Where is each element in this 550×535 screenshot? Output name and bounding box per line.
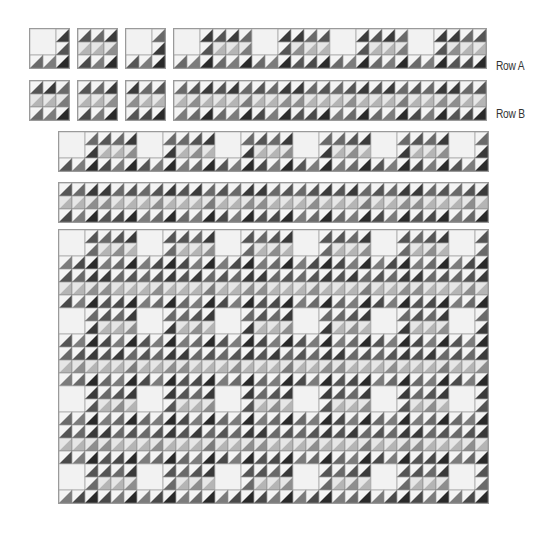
half-square-triangle	[371, 269, 384, 282]
half-square-triangle	[358, 196, 371, 209]
half-square-triangle	[473, 55, 486, 68]
white-square	[293, 386, 319, 412]
half-square-triangle	[345, 438, 358, 451]
half-square-triangle	[189, 425, 202, 438]
half-square-triangle	[436, 399, 449, 412]
half-square-triangle	[241, 464, 254, 477]
half-square-triangle	[410, 451, 423, 464]
half-square-triangle	[228, 490, 241, 503]
half-square-triangle	[187, 107, 200, 120]
half-square-triangle	[449, 334, 462, 347]
half-square-triangle	[449, 347, 462, 360]
half-square-triangle	[189, 243, 202, 256]
half-square-triangle	[98, 386, 111, 399]
half-square-triangle	[176, 412, 189, 425]
half-square-triangle	[410, 269, 423, 282]
half-square-triangle	[215, 196, 228, 209]
half-square-triangle	[78, 42, 91, 55]
half-square-triangle	[475, 334, 488, 347]
half-square-triangle	[59, 256, 72, 269]
half-square-triangle	[202, 295, 215, 308]
half-square-triangle	[345, 269, 358, 282]
half-square-triangle	[397, 399, 410, 412]
half-square-triangle	[447, 42, 460, 55]
half-square-triangle	[137, 183, 150, 196]
patchwork-grid	[30, 29, 69, 68]
half-square-triangle	[254, 347, 267, 360]
half-square-triangle	[176, 132, 189, 145]
half-square-triangle	[384, 196, 397, 209]
half-square-triangle	[163, 477, 176, 490]
half-square-triangle	[85, 158, 98, 171]
white-square	[293, 464, 319, 490]
half-square-triangle	[59, 412, 72, 425]
half-square-triangle	[449, 295, 462, 308]
half-square-triangle	[174, 107, 187, 120]
half-square-triangle	[104, 94, 117, 107]
half-square-triangle	[85, 477, 98, 490]
half-square-triangle	[59, 451, 72, 464]
half-square-triangle	[59, 360, 72, 373]
half-square-triangle	[395, 55, 408, 68]
half-square-triangle	[371, 183, 384, 196]
half-square-triangle	[447, 81, 460, 94]
half-square-triangle	[369, 55, 382, 68]
half-square-triangle	[111, 347, 124, 360]
half-square-triangle	[371, 295, 384, 308]
half-square-triangle	[423, 196, 436, 209]
half-square-triangle	[306, 183, 319, 196]
half-square-triangle	[85, 145, 98, 158]
half-square-triangle	[447, 107, 460, 120]
half-square-triangle	[124, 490, 137, 503]
half-square-triangle	[423, 145, 436, 158]
half-square-triangle	[126, 94, 139, 107]
half-square-triangle	[343, 94, 356, 107]
half-square-triangle	[215, 269, 228, 282]
half-square-triangle	[124, 464, 137, 477]
half-square-triangle	[462, 269, 475, 282]
half-square-triangle	[358, 412, 371, 425]
half-square-triangle	[410, 334, 423, 347]
half-square-triangle	[345, 158, 358, 171]
half-square-triangle	[228, 209, 241, 222]
half-square-triangle	[85, 438, 98, 451]
half-square-triangle	[371, 425, 384, 438]
half-square-triangle	[319, 451, 332, 464]
half-square-triangle	[306, 295, 319, 308]
half-square-triangle	[85, 321, 98, 334]
half-square-triangle	[384, 438, 397, 451]
half-square-triangle	[85, 451, 98, 464]
half-square-triangle	[124, 282, 137, 295]
half-square-triangle	[449, 256, 462, 269]
half-square-triangle	[319, 425, 332, 438]
half-square-triangle	[124, 158, 137, 171]
half-square-triangle	[98, 334, 111, 347]
half-square-triangle	[91, 29, 104, 42]
white-square	[252, 29, 278, 55]
half-square-triangle	[72, 295, 85, 308]
half-square-triangle	[72, 360, 85, 373]
half-square-triangle	[98, 209, 111, 222]
half-square-triangle	[215, 490, 228, 503]
half-square-triangle	[215, 412, 228, 425]
white-square	[293, 132, 319, 158]
half-square-triangle	[241, 308, 254, 321]
half-square-triangle	[332, 196, 345, 209]
white-square	[293, 308, 319, 334]
half-square-triangle	[358, 158, 371, 171]
half-square-triangle	[72, 412, 85, 425]
half-square-triangle	[280, 308, 293, 321]
half-square-triangle	[30, 107, 43, 120]
half-square-triangle	[254, 209, 267, 222]
half-square-triangle	[423, 347, 436, 360]
half-square-triangle	[395, 42, 408, 55]
half-square-triangle	[163, 308, 176, 321]
half-square-triangle	[475, 243, 488, 256]
half-square-triangle	[241, 158, 254, 171]
half-square-triangle	[410, 477, 423, 490]
half-square-triangle	[228, 347, 241, 360]
half-square-triangle	[356, 94, 369, 107]
half-square-triangle	[319, 477, 332, 490]
half-square-triangle	[202, 230, 215, 243]
half-square-triangle	[163, 347, 176, 360]
